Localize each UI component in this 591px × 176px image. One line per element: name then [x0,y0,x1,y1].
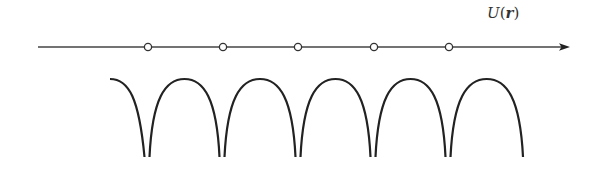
potential-arc [225,79,296,157]
lattice-site [144,43,151,50]
lattice-site [219,43,226,50]
potential-arc [376,79,446,157]
potential-arc [451,79,524,157]
potential-arc [110,79,145,157]
potential-arc [150,79,220,157]
lattice-site [294,43,301,50]
periodic-potential-diagram [0,0,591,176]
lattice-site [370,43,377,50]
potential-arc [301,79,371,157]
potential-curve [110,79,523,157]
lattice-site [445,43,452,50]
